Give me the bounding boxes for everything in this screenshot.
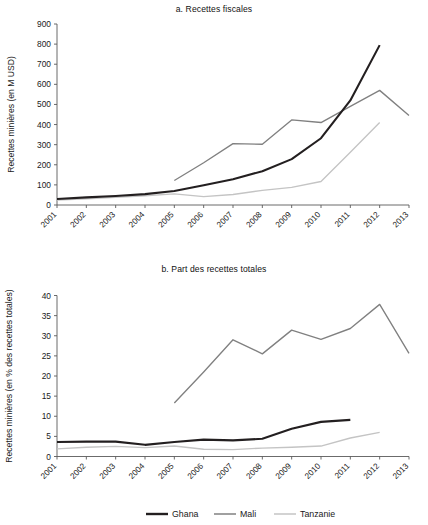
x-tick-label: 2012 <box>362 210 382 230</box>
chart-panel-b: b. Part des recettes totales 05101520253… <box>0 262 428 525</box>
y-tick-label: 600 <box>37 79 51 89</box>
y-axis-title: Recettes minières (en % des recettes tot… <box>4 289 14 463</box>
chart-legend: GhanaMaliTanzanie <box>0 503 428 523</box>
y-tick-label: 0 <box>46 200 51 210</box>
x-tick-label: 2006 <box>186 210 206 230</box>
x-tick-label: 2011 <box>333 461 352 480</box>
x-tick-label: 2003 <box>98 461 118 481</box>
y-tick-label: 700 <box>37 59 51 69</box>
x-tick-label: 2010 <box>303 461 323 481</box>
chart-a-plot: 0100200300400500600700800900200120022003… <box>0 0 428 262</box>
x-tick-label: 2004 <box>127 210 147 230</box>
legend-label-ghana: Ghana <box>172 509 199 519</box>
legend-item-ghana: Ghana <box>146 509 199 519</box>
y-tick-label: 900 <box>37 19 51 29</box>
y-tick-label: 35 <box>42 311 52 321</box>
y-tick-label: 800 <box>37 39 51 49</box>
y-tick-label: 40 <box>42 291 52 301</box>
x-tick-label: 2013 <box>391 461 411 481</box>
x-tick-label: 2011 <box>333 210 352 229</box>
x-tick-label: 2002 <box>69 210 89 230</box>
x-tick-label: 2006 <box>186 461 206 481</box>
y-tick-label: 500 <box>37 99 51 109</box>
chart-panel-a: a. Recettes fiscales 0100200300400500600… <box>0 0 428 262</box>
y-tick-label: 25 <box>42 351 52 361</box>
x-tick-label: 2002 <box>69 461 89 481</box>
x-tick-label: 2010 <box>303 210 323 230</box>
figure-mining-revenues: a. Recettes fiscales 0100200300400500600… <box>0 0 428 525</box>
y-tick-label: 15 <box>42 391 52 401</box>
x-tick-label: 2001 <box>39 210 59 230</box>
x-tick-label: 2008 <box>245 461 265 481</box>
y-tick-label: 10 <box>42 411 52 421</box>
legend-item-tanzanie: Tanzanie <box>274 509 335 519</box>
x-tick-label: 2005 <box>157 461 177 481</box>
y-tick-label: 300 <box>37 140 51 150</box>
y-tick-label: 30 <box>42 331 52 341</box>
x-tick-label: 2001 <box>39 461 59 481</box>
x-tick-label: 2009 <box>274 461 294 481</box>
y-axis-title: Recettes minières (en M USD) <box>6 56 16 173</box>
y-tick-label: 5 <box>46 431 51 441</box>
x-tick-label: 2013 <box>391 210 411 230</box>
x-tick-label: 2005 <box>157 210 177 230</box>
x-tick-label: 2007 <box>215 461 235 481</box>
x-tick-label: 2004 <box>127 461 147 481</box>
x-tick-label: 2008 <box>245 210 265 230</box>
y-tick-label: 400 <box>37 120 51 130</box>
y-tick-label: 20 <box>42 371 52 381</box>
legend-label-tanzanie: Tanzanie <box>300 509 335 519</box>
series-line-ghana <box>57 420 350 445</box>
y-tick-label: 0 <box>46 452 51 462</box>
legend-label-mali: Mali <box>240 509 256 519</box>
x-tick-label: 2009 <box>274 210 294 230</box>
y-tick-label: 100 <box>37 180 51 190</box>
series-line-mali <box>174 90 409 180</box>
legend-item-mali: Mali <box>214 509 256 519</box>
y-tick-label: 200 <box>37 160 51 170</box>
x-tick-label: 2007 <box>215 210 235 230</box>
x-tick-label: 2012 <box>362 461 382 481</box>
x-tick-label: 2003 <box>98 210 118 230</box>
series-line-tanzanie <box>57 123 380 200</box>
series-line-ghana <box>57 45 380 199</box>
series-line-mali <box>174 304 409 403</box>
chart-b-plot: 0510152025303540200120022003200420052006… <box>0 262 428 525</box>
